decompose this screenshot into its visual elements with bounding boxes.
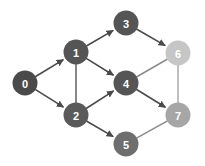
graph-node-circle-0[interactable] [13,71,38,96]
graph-edge-1-4 [86,58,113,75]
graph-edge-4-6 [136,59,167,77]
graph-node-circle-4[interactable] [114,71,139,96]
graph-node-circle-3[interactable] [114,11,139,36]
graph-edge-5-7 [136,121,167,138]
graph-edge-2-4 [86,91,114,109]
graph-node-circle-5[interactable] [114,132,139,157]
graph-node-5[interactable]: 5 [114,132,139,157]
graph-canvas: 01234567 [0,0,205,166]
graph-node-circle-6[interactable] [166,41,191,66]
graph-svg: 01234567 [0,0,205,166]
graph-node-1[interactable]: 1 [64,40,89,65]
graph-edge-0-2 [35,89,63,107]
graph-edge-4-7 [136,89,165,107]
graph-node-7[interactable]: 7 [166,103,191,128]
graph-node-circle-7[interactable] [166,103,191,128]
graph-edge-3-6 [136,29,165,46]
graph-node-2[interactable]: 2 [64,103,89,128]
graph-node-circle-2[interactable] [64,103,89,128]
graph-node-3[interactable]: 3 [114,11,139,36]
graph-node-0[interactable]: 0 [13,71,38,96]
graph-edge-2-5 [86,121,113,137]
graph-edge-0-1 [35,60,63,77]
node-layer: 01234567 [13,11,191,157]
graph-node-4[interactable]: 4 [114,71,139,96]
graph-edge-1-3 [86,30,113,46]
graph-node-circle-1[interactable] [64,40,89,65]
edge-layer [35,29,178,138]
graph-node-6[interactable]: 6 [166,41,191,66]
